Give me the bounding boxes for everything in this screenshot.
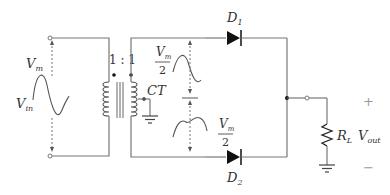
svg-text:2: 2 [222,136,229,149]
vout-label: Vout [358,128,381,145]
rl-label: RL [336,128,352,145]
secondary-coil [131,82,137,116]
transformer [103,73,137,118]
load-resistor [319,98,335,172]
output-terminal [305,96,309,100]
bottom-vm-over-2-label: Vm 2 [218,117,235,149]
input-sine-wave [33,75,69,114]
d1-label: D1 [226,10,243,27]
center-tap-ground [138,97,158,123]
ct-label: CT [147,83,167,98]
top-half-sine [173,55,201,81]
input-source [33,36,109,158]
turns-ratio-label: 1 : 1 [109,53,136,67]
bottom-wire [131,116,205,157]
svg-text:2: 2 [159,64,166,77]
svg-text:Vm: Vm [219,117,235,133]
d2-label: D2 [226,170,243,187]
rectifier-circuit-diagram: Vm Vin 1 : 1 CT Vm 2 [0,0,390,195]
vout-plus: + [363,94,374,109]
vin-label: Vin [16,96,33,113]
vm-label: Vm [26,56,43,73]
svg-text:Vm: Vm [156,45,172,61]
diode-d1 [205,30,287,46]
diode-d2 [205,149,287,165]
top-vm-over-2-label: Vm 2 [155,45,172,77]
vout-minus: − [363,160,374,175]
primary-coil [103,82,109,116]
